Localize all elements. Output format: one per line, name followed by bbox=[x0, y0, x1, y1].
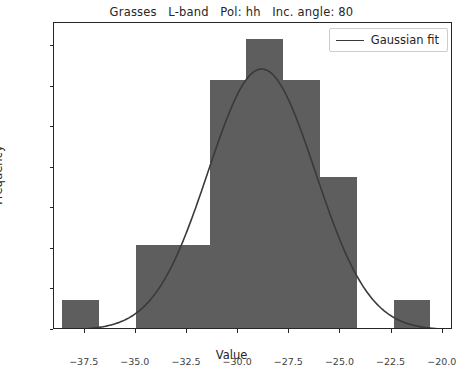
x-tick-label: −27.5 bbox=[274, 356, 303, 367]
x-tick-label: −20.0 bbox=[427, 356, 456, 367]
x-tick-label: −25.0 bbox=[325, 356, 354, 367]
figure: Grasses L-band Pol: hh Inc. angle: 80 Fr… bbox=[0, 0, 463, 369]
x-tick-mark bbox=[186, 329, 187, 333]
y-tick-mark bbox=[50, 329, 54, 330]
legend-label: Gaussian fit bbox=[371, 33, 439, 47]
x-tick-mark bbox=[84, 329, 85, 333]
x-tick-mark bbox=[391, 329, 392, 333]
x-tick-mark bbox=[135, 329, 136, 333]
x-tick-mark bbox=[442, 329, 443, 333]
x-tick-mark bbox=[237, 329, 238, 333]
y-axis-label: Frequency bbox=[0, 145, 5, 204]
x-tick-mark bbox=[288, 329, 289, 333]
chart-title: Grasses L-band Pol: hh Inc. angle: 80 bbox=[0, 5, 463, 19]
x-tick-label: −37.5 bbox=[69, 356, 98, 367]
x-tick-mark bbox=[339, 329, 340, 333]
x-tick-label: −22.5 bbox=[376, 356, 405, 367]
x-tick-label: −35.0 bbox=[120, 356, 149, 367]
x-tick-label: −32.5 bbox=[171, 356, 200, 367]
gaussian-fit-curve bbox=[54, 23, 451, 328]
x-tick-label: −30.0 bbox=[223, 356, 252, 367]
legend-line-icon bbox=[336, 40, 364, 41]
legend[interactable]: Gaussian fit bbox=[329, 28, 448, 52]
plot-area: Gaussian fit bbox=[53, 22, 452, 329]
